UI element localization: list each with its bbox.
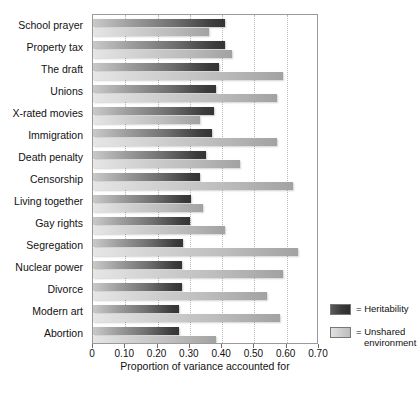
x-axis-tick-label: 0.60: [276, 348, 295, 359]
x-axis-tick-label: 0: [89, 348, 95, 359]
bar-row: [93, 279, 317, 301]
bar-heritability: [93, 327, 179, 335]
bar-row: [93, 257, 317, 279]
legend-label-heritability: = Heritability: [356, 303, 409, 314]
plot-area: [92, 14, 318, 344]
bar-row: [93, 213, 317, 235]
y-axis-category-labels: School prayerProperty taxThe draftUnions…: [0, 14, 88, 344]
bar-unshared-environment: [93, 336, 216, 344]
x-axis-tick-label: 0.30: [179, 348, 198, 359]
legend: = Heritability = Unshared environment: [330, 303, 418, 349]
x-axis-title: Proportion of variance accounted for: [92, 360, 318, 372]
bar-heritability: [93, 217, 190, 225]
bar-rows: [93, 15, 317, 343]
bar-unshared-environment: [93, 72, 283, 80]
y-axis-label: Modern art: [32, 306, 83, 317]
y-axis-label: Property tax: [26, 42, 83, 53]
legend-label-unshared-line1: = Unshared: [356, 326, 405, 337]
bar-row: [93, 235, 317, 257]
legend-label-unshared-environment: = Unshared environment: [356, 326, 416, 348]
bar-heritability: [93, 305, 179, 313]
y-axis-label: Unions: [50, 86, 83, 97]
bar-heritability: [93, 107, 214, 115]
bar-row: [93, 37, 317, 59]
bar-heritability: [93, 261, 182, 269]
x-axis-tick-label: 0.10: [115, 348, 134, 359]
bar-heritability: [93, 129, 212, 137]
bar-unshared-environment: [93, 50, 232, 58]
bar-row: [93, 147, 317, 169]
bar-row: [93, 81, 317, 103]
legend-label-unshared-line2: environment: [356, 337, 416, 348]
bar-heritability: [93, 195, 191, 203]
y-axis-label: Divorce: [47, 284, 83, 295]
bar-heritability: [93, 239, 183, 247]
x-axis-tick-label: 0.40: [211, 348, 230, 359]
bar-row: [93, 301, 317, 323]
bar-unshared-environment: [93, 248, 298, 256]
bar-heritability: [93, 283, 182, 291]
y-axis-label: Censorship: [30, 174, 83, 185]
bar-unshared-environment: [93, 182, 293, 190]
bar-unshared-environment: [93, 94, 277, 102]
bar-unshared-environment: [93, 116, 200, 124]
x-axis-tick-label: 0.50: [244, 348, 263, 359]
bar-unshared-environment: [93, 314, 280, 322]
bar-unshared-environment: [93, 160, 240, 168]
bar-unshared-environment: [93, 270, 283, 278]
bar-unshared-environment: [93, 28, 209, 36]
bar-heritability: [93, 41, 225, 49]
bar-row: [93, 15, 317, 37]
y-axis-label: Nuclear power: [15, 262, 83, 273]
bar-unshared-environment: [93, 204, 203, 212]
y-axis-label: School prayer: [18, 20, 83, 31]
bar-row: [93, 169, 317, 191]
y-axis-label: Segregation: [26, 240, 83, 251]
legend-swatch-heritability-icon: [330, 304, 351, 315]
bar-heritability: [93, 85, 216, 93]
y-axis-label: The draft: [41, 64, 83, 75]
x-axis-tick-label: 0.70: [308, 348, 327, 359]
x-axis-tick-label: 0.20: [147, 348, 166, 359]
bar-heritability: [93, 19, 225, 27]
bar-heritability: [93, 151, 206, 159]
bar-row: [93, 191, 317, 213]
bar-unshared-environment: [93, 138, 277, 146]
bar-row: [93, 103, 317, 125]
y-axis-label: X-rated movies: [12, 108, 83, 119]
bar-row: [93, 59, 317, 81]
bar-unshared-environment: [93, 226, 225, 234]
legend-item-unshared-environment: = Unshared environment: [330, 326, 418, 342]
y-axis-label: Abortion: [44, 328, 83, 339]
bar-chart: School prayerProperty taxThe draftUnions…: [0, 0, 419, 396]
legend-item-heritability: = Heritability: [330, 303, 418, 319]
bar-row: [93, 323, 317, 344]
y-axis-label: Death penalty: [18, 152, 83, 163]
y-axis-label: Gay rights: [35, 218, 83, 229]
bar-unshared-environment: [93, 292, 267, 300]
y-axis-label: Living together: [14, 196, 83, 207]
bar-row: [93, 125, 317, 147]
bar-heritability: [93, 63, 219, 71]
y-axis-label: Immigration: [28, 130, 83, 141]
bar-heritability: [93, 173, 200, 181]
legend-swatch-unshared-icon: [330, 327, 351, 338]
